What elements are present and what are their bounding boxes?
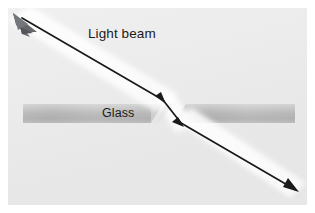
glass-label: Glass <box>102 106 134 120</box>
light-beam-label: Light beam <box>88 26 156 41</box>
panel-texture-overlay <box>8 8 307 205</box>
diagram-canvas <box>0 0 315 213</box>
refraction-diagram: Light beam Glass <box>0 0 315 213</box>
